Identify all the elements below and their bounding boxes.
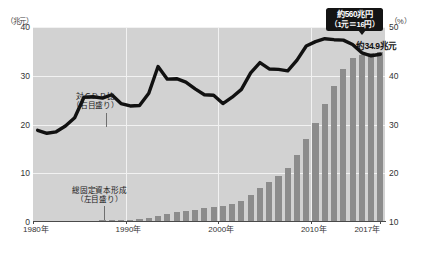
gdp-ratio-annotation-line2: （右目盛り） (72, 101, 119, 110)
bar (331, 86, 337, 222)
gdp-ratio-annotation: 対ＧＤＰ比 （右目盛り） (72, 92, 119, 111)
x-axis-line (33, 221, 386, 222)
bar (238, 201, 244, 222)
bar (312, 123, 318, 222)
x-axis-tick-label: 2000年 (208, 226, 234, 234)
bar (201, 208, 207, 222)
bar (285, 168, 291, 222)
left-axis-tick-label: 30 (4, 72, 30, 81)
right-axis-tick-label: 40 (389, 72, 415, 81)
gfcf-annotation-line2: （左目盛り） (72, 195, 127, 204)
bar (248, 195, 254, 222)
bar (275, 176, 281, 222)
x-axis-tick-label: 1990年 (116, 226, 142, 234)
callout-box: 約560兆円 （1元＝16円） (326, 8, 383, 31)
x-axis-tick-label: 2010年 (301, 226, 327, 234)
gdp-ratio-annotation-line1: 対ＧＤＰ比 (72, 92, 119, 101)
gfcf-annotation: 総固定資本形成 （左目盛り） (72, 186, 127, 205)
bar (368, 53, 374, 222)
gfcf-leader-line (104, 206, 105, 220)
right-axis-tick-label: 30 (389, 121, 415, 130)
bar (322, 104, 328, 222)
bar (211, 207, 217, 222)
right-axis-tick-label: 20 (389, 169, 415, 178)
gdp-ratio-leader-line (106, 113, 107, 127)
callout-line1: 約560兆円 (330, 10, 379, 20)
bar (294, 155, 300, 222)
bar (266, 182, 272, 222)
gridline-horizontal (33, 76, 385, 77)
x-axis-tick-mark (311, 221, 312, 224)
bar (220, 206, 226, 222)
left-axis-ticks: 010203040 (0, 0, 30, 256)
bar (350, 58, 356, 222)
gfcf-annotation-line1: 総固定資本形成 (72, 186, 127, 195)
bar (229, 204, 235, 222)
left-axis-tick-label: 20 (4, 121, 30, 130)
chart-figure: （兆元） （%） 010203040 1020304050 1980年1990年… (0, 0, 424, 256)
right-axis-tick-label: 10 (389, 218, 415, 227)
left-axis-tick-label: 40 (4, 23, 30, 32)
latest-value-label: 約34.9兆元 (356, 39, 397, 51)
x-axis-tick-mark (380, 221, 381, 224)
x-axis-tick-label: 1980年 (23, 226, 49, 234)
bar (340, 69, 346, 222)
right-axis-tick-label: 50 (389, 23, 415, 32)
bar (303, 139, 309, 223)
bar (359, 55, 365, 223)
left-axis-tick-label: 10 (4, 169, 30, 178)
gridline-vertical (218, 27, 219, 222)
callout-line2: （1元＝16円） (330, 20, 379, 29)
x-axis-tick-mark (126, 221, 127, 224)
x-axis-tick-mark (218, 221, 219, 224)
x-axis-tick-label: 2017年 (354, 226, 380, 234)
bar (257, 188, 263, 222)
x-axis-tick-mark (33, 221, 34, 224)
callout-pointer-icon (358, 30, 366, 35)
bar (377, 52, 383, 222)
